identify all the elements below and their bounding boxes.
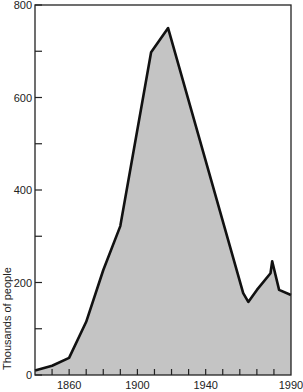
y-tick-label: 0 xyxy=(26,369,32,381)
y-tick-label: 600 xyxy=(14,92,32,104)
area-fill xyxy=(35,28,291,375)
y-tick-label: 200 xyxy=(14,277,32,289)
y-tick-label: 800 xyxy=(14,0,32,11)
y-axis-label: Thousands of people xyxy=(1,267,13,370)
x-tick-label: 1900 xyxy=(125,379,149,391)
plot-area xyxy=(35,28,291,375)
x-tick-label: 1860 xyxy=(57,379,81,391)
y-axis: 0200400600800 xyxy=(14,0,42,381)
x-tick-label: 1990 xyxy=(279,379,303,391)
y-tick-label: 400 xyxy=(14,184,32,196)
x-tick-label: 1940 xyxy=(193,379,217,391)
area-chart: 0200400600800 1860190019401990 Thousands… xyxy=(0,0,303,392)
